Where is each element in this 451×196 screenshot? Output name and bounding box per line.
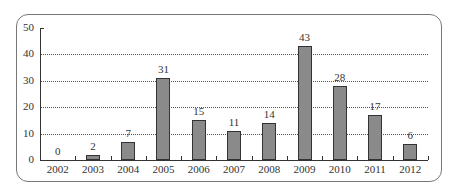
x-axis-tick xyxy=(393,156,394,160)
y-tick-label: 20 xyxy=(14,100,34,112)
bar xyxy=(156,78,170,160)
x-tick-label: 2002 xyxy=(40,163,76,175)
bar xyxy=(368,115,382,160)
x-tick-label: 2012 xyxy=(392,163,428,175)
x-axis-tick xyxy=(75,156,76,160)
x-tick-label: 2006 xyxy=(181,163,217,175)
x-tick-label: 2008 xyxy=(251,163,287,175)
data-label: 2 xyxy=(78,140,108,152)
bar xyxy=(298,46,312,160)
x-axis-tick xyxy=(287,156,288,160)
x-axis-tick xyxy=(111,156,112,160)
x-tick-label: 2003 xyxy=(75,163,111,175)
bar xyxy=(333,86,347,160)
y-tick-label: 30 xyxy=(14,74,34,86)
data-label: 6 xyxy=(395,129,425,141)
data-label: 28 xyxy=(325,71,355,83)
bar xyxy=(403,144,417,160)
data-label: 15 xyxy=(184,105,214,117)
bar-chart: 0102030405002002220037200431200515200611… xyxy=(0,0,451,196)
x-tick-label: 2010 xyxy=(322,163,358,175)
y-tick-label: 0 xyxy=(14,153,34,165)
y-tick-label: 40 xyxy=(14,47,34,59)
y-tick-label: 10 xyxy=(14,127,34,139)
bar xyxy=(86,155,100,160)
data-label: 0 xyxy=(43,145,73,157)
x-tick-label: 2004 xyxy=(110,163,146,175)
data-label: 11 xyxy=(219,116,249,128)
data-label: 7 xyxy=(113,127,143,139)
bar xyxy=(262,123,276,160)
x-tick-label: 2005 xyxy=(145,163,181,175)
bar xyxy=(227,131,241,160)
x-tick-label: 2007 xyxy=(216,163,252,175)
bar xyxy=(192,120,206,160)
y-axis xyxy=(40,28,41,160)
gridline xyxy=(40,54,428,55)
x-axis-tick xyxy=(181,156,182,160)
data-label: 31 xyxy=(148,63,178,75)
y-tick-label: 50 xyxy=(14,21,34,33)
x-axis-tick xyxy=(357,156,358,160)
data-label: 17 xyxy=(360,100,390,112)
data-label: 14 xyxy=(254,108,284,120)
data-label: 43 xyxy=(290,31,320,43)
bar xyxy=(121,142,135,160)
x-axis xyxy=(40,160,428,161)
x-axis-tick xyxy=(322,156,323,160)
x-axis-tick xyxy=(428,156,429,160)
gridline xyxy=(40,81,428,82)
x-tick-label: 2009 xyxy=(287,163,323,175)
x-tick-label: 2011 xyxy=(357,163,393,175)
x-axis-tick xyxy=(252,156,253,160)
x-axis-tick xyxy=(216,156,217,160)
x-axis-tick xyxy=(146,156,147,160)
